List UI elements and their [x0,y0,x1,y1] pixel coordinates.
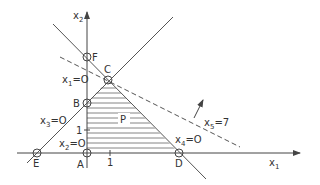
vertex-label-B: B [73,98,80,109]
vertex-label-C: C [104,64,111,75]
objective-label-x5: x5=7 [204,117,229,131]
vertex-label-E: E [33,158,39,169]
x2-axis-label: x2 [73,10,83,24]
feasible-region-hatching [80,83,200,148]
constraint-label-x4: x4=O [175,134,202,148]
x1-axis-label: x1 [269,157,279,171]
x2-tick-label: 1 [76,125,82,136]
vertex-label-F: F [92,52,98,63]
constraint-label-x1: x1=O [62,74,89,88]
region-label: P [120,114,126,125]
x1-tick-label: 1 [107,157,113,168]
vertex-label-D: D [175,158,183,169]
lp-diagram: x2 x1 1 1 P A B C D E F x1=O x2=O x3=O x… [0,0,320,185]
objective-direction-arrow [194,100,203,118]
constraint-line-x3 [27,17,173,163]
constraint-label-x2: x2=O [59,138,86,152]
vertex-label-A: A [77,159,84,170]
